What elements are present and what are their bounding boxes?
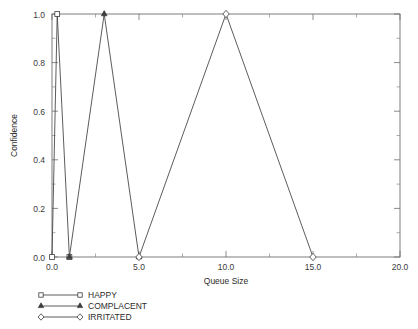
legend-marker-diamond-icon — [38, 314, 44, 320]
series-happy-marker — [50, 255, 55, 260]
x-tick-labels: 0.0 5.0 10.0 15.0 20.0 — [46, 262, 408, 272]
legend-marker-triangle-icon — [38, 303, 43, 308]
series-complacent — [67, 11, 142, 259]
x-tick-label: 20.0 — [392, 262, 409, 272]
series-happy-line — [52, 14, 69, 257]
x-tick-label: 0.0 — [46, 262, 58, 272]
legend-label-complacent: COMPLACENT — [88, 301, 147, 311]
legend-label-happy: HAPPY — [88, 290, 117, 300]
legend-entry-irritated: IRRITATED — [38, 312, 132, 322]
series-complacent-line — [69, 14, 139, 257]
chart-figure: 0.0 5.0 10.0 15.0 20.0 0.0 0.2 0.4 0.6 0… — [0, 0, 418, 329]
series-complacent-marker — [101, 11, 107, 16]
y-tick-label: 0.0 — [33, 253, 45, 263]
y-tick-label: 0.8 — [33, 58, 45, 68]
x-tick-label: 10.0 — [218, 262, 235, 272]
y-tick-label: 1.0 — [33, 10, 45, 20]
y-tick-label: 0.6 — [33, 107, 45, 117]
plot-frame — [52, 14, 400, 257]
x-tick-label: 5.0 — [133, 262, 145, 272]
chart-svg: 0.0 5.0 10.0 15.0 20.0 0.0 0.2 0.4 0.6 0… — [0, 0, 418, 329]
y-tick-label: 0.2 — [33, 204, 45, 214]
y-tick-labels: 0.0 0.2 0.4 0.6 0.8 1.0 — [33, 10, 45, 263]
legend-marker-square-icon — [39, 293, 43, 297]
series-irritated-marker — [136, 253, 142, 260]
legend-entry-complacent: COMPLACENT — [38, 301, 147, 311]
y-axis-ticks-right — [394, 14, 400, 257]
series-irritated-line — [139, 14, 313, 257]
series-happy-marker — [55, 12, 60, 17]
series-irritated-marker — [310, 253, 316, 260]
legend-marker-triangle-icon — [77, 303, 82, 308]
x-tick-label: 15.0 — [305, 262, 322, 272]
legend-marker-diamond-icon — [77, 314, 83, 320]
y-axis-title: Confidence — [9, 114, 19, 157]
x-axis-title: Queue Size — [204, 276, 249, 286]
x-axis-ticks — [52, 251, 400, 257]
legend-marker-square-icon — [78, 293, 82, 297]
legend-entry-happy: HAPPY — [39, 290, 117, 300]
y-tick-label: 0.4 — [33, 155, 45, 165]
legend-label-irritated: IRRITATED — [88, 312, 132, 322]
series-irritated — [136, 10, 316, 260]
chart-legend: HAPPY COMPLACENT IRRITATED — [38, 290, 147, 322]
series-irritated-marker — [223, 10, 229, 17]
